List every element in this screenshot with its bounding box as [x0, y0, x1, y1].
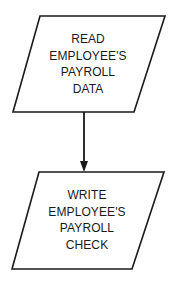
node-label-line: PAYROLL: [27, 220, 147, 237]
arrowhead-down-icon: [80, 161, 88, 172]
node-label-line: WRITE: [27, 187, 147, 204]
node-label-line: READ: [28, 31, 148, 48]
node-label-read-data: READ EMPLOYEE'S PAYROLL DATA: [28, 31, 148, 97]
node-label-line: EMPLOYEE'S: [28, 48, 148, 65]
node-label-line: DATA: [28, 81, 148, 98]
node-label-line: EMPLOYEE'S: [27, 204, 147, 221]
node-label-line: CHECK: [27, 237, 147, 254]
node-label-write-check: WRITE EMPLOYEE'S PAYROLL CHECK: [27, 187, 147, 253]
node-label-line: PAYROLL: [28, 64, 148, 81]
